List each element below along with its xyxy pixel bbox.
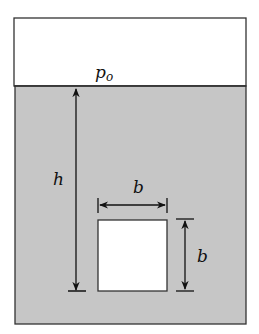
width-label: b: [133, 177, 144, 197]
tank-diagram: po h b b: [0, 0, 259, 334]
air-region: [14, 18, 246, 86]
depth-label: h: [53, 169, 64, 189]
height-label: b: [197, 246, 208, 266]
gate-square: [98, 220, 167, 291]
